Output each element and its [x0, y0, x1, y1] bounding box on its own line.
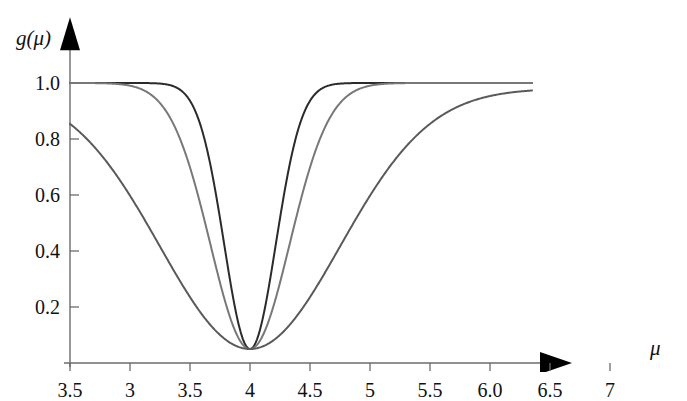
x-tick-label-4: 4.5 — [298, 379, 323, 401]
x-tick-label-6: 5.5 — [418, 379, 443, 401]
x-tick-label-2: 3.5 — [178, 379, 203, 401]
axis-layer — [60, 17, 610, 372]
y-tick-label-1: 0.8 — [14, 128, 60, 151]
x-tick-label-7: 6.0 — [478, 379, 503, 401]
curve-layer — [70, 83, 532, 349]
x-tick-label-5: 5 — [365, 379, 375, 401]
y-tick-label-3: 0.4 — [14, 240, 60, 263]
x-axis-arrowhead — [540, 352, 572, 372]
x-tick-label-0: 3.5 — [58, 379, 83, 401]
x-tick-label-3: 4 — [245, 379, 255, 401]
y-tick-label-4: 0.2 — [14, 296, 60, 319]
x-tick-label-9: 7 — [605, 379, 615, 401]
y-axis-arrowhead — [60, 17, 80, 50]
x-tick-label-1: 3 — [125, 379, 135, 401]
x-tick-label-8: 6.5 — [538, 379, 563, 401]
x-axis-title: μ — [650, 336, 661, 361]
y-tick-label-2: 0.6 — [14, 184, 60, 207]
y-tick-label-0: 1.0 — [14, 72, 60, 95]
y-axis-title: g(μ) — [16, 26, 51, 51]
curve-wide — [70, 91, 532, 349]
